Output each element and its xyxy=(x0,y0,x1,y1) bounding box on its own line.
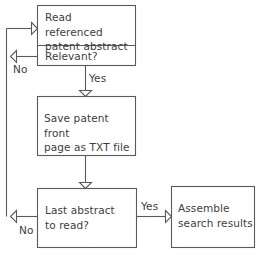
node-save-txt-label: Save patent front page as TXT file xyxy=(44,111,134,155)
arrowhead-last-abstract-no-icon xyxy=(11,211,17,223)
arrowhead-into-last-abstract-icon xyxy=(80,183,92,189)
edge-label-relevant-yes: Yes xyxy=(89,72,106,84)
arrowhead-into-read-abstract-icon xyxy=(32,23,38,35)
arrowhead-relevant-no-icon xyxy=(11,51,17,63)
node-assemble-results-label: Assemble search results xyxy=(178,201,256,230)
flowchart-canvas: Read referenced patent abstract Relevant… xyxy=(0,0,263,262)
edge-label-relevant-no: No xyxy=(13,63,27,75)
node-read-abstract-label: Read referenced patent abstract xyxy=(45,10,133,54)
node-relevant-decision-label: Relevant? xyxy=(45,49,133,64)
arrowhead-into-assemble-results-icon xyxy=(166,211,172,223)
arrowhead-into-save-txt-icon xyxy=(80,91,92,97)
node-last-abstract-label: Last abstract to read? xyxy=(45,203,133,232)
edge-label-last-abstract-yes: Yes xyxy=(141,200,158,212)
edge-label-last-abstract-no: No xyxy=(19,224,33,236)
